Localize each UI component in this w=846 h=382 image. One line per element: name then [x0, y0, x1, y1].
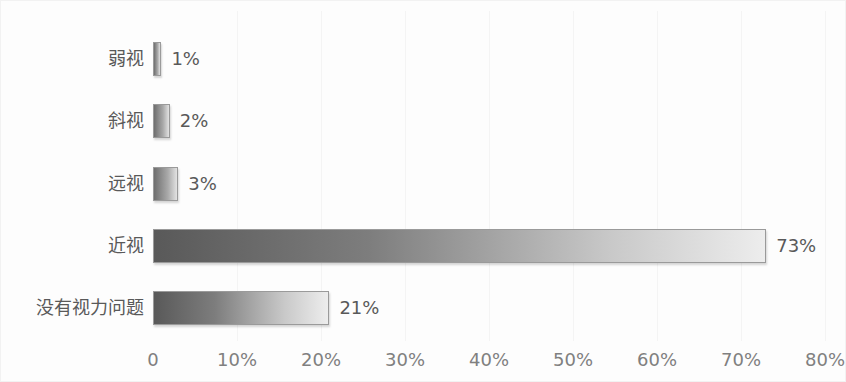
x-axis: 010%20%30%40%50%60%70%80%: [1, 341, 846, 382]
bar-wrapper: 3%: [153, 167, 217, 201]
bar-row: 斜视2%: [1, 104, 846, 138]
bar-wrapper: 73%: [153, 229, 816, 263]
category-label: 没有视力问题: [36, 299, 144, 317]
bar-row: 远视3%: [1, 167, 846, 201]
x-tick-label: 30%: [385, 349, 425, 370]
bar[interactable]: [153, 42, 161, 76]
x-tick-label: 70%: [721, 349, 761, 370]
bar-value-label: 21%: [339, 299, 379, 317]
bar-wrapper: 1%: [153, 42, 200, 76]
bar-value-label: 3%: [188, 175, 217, 193]
category-label: 远视: [108, 175, 144, 193]
bar-row: 近视73%: [1, 229, 846, 263]
category-label: 弱视: [108, 50, 144, 68]
bar-row: 没有视力问题21%: [1, 291, 846, 325]
bar-value-label: 1%: [171, 50, 200, 68]
bar-wrapper: 2%: [153, 104, 208, 138]
category-label: 近视: [108, 237, 144, 255]
bar[interactable]: [153, 291, 329, 325]
bar-row: 弱视1%: [1, 42, 846, 76]
bar-wrapper: 21%: [153, 291, 379, 325]
bar[interactable]: [153, 229, 766, 263]
bar[interactable]: [153, 104, 170, 138]
x-tick-label: 0: [147, 349, 158, 370]
bar[interactable]: [153, 167, 178, 201]
x-tick-label: 80%: [805, 349, 845, 370]
x-tick-label: 10%: [217, 349, 257, 370]
bar-value-label: 73%: [776, 237, 816, 255]
plot-area: 弱视1%斜视2%远视3%近视73%没有视力问题21%: [1, 1, 846, 341]
bar-value-label: 2%: [180, 112, 209, 130]
bar-chart: 弱视1%斜视2%远视3%近视73%没有视力问题21% 010%20%30%40%…: [0, 0, 846, 382]
x-tick-label: 60%: [637, 349, 677, 370]
x-tick-label: 20%: [301, 349, 341, 370]
x-tick-label: 50%: [553, 349, 593, 370]
category-label: 斜视: [108, 112, 144, 130]
x-tick-label: 40%: [469, 349, 509, 370]
